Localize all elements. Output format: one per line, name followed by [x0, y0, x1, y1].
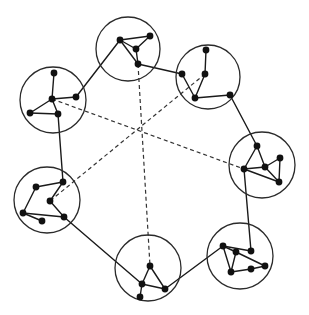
cluster-c5 [207, 223, 273, 289]
cluster-edge [52, 97, 76, 99]
cluster-c7 [14, 167, 80, 233]
graph-node [262, 164, 269, 171]
graph-node [162, 286, 169, 293]
graph-node [248, 248, 255, 255]
bridge-edge [138, 64, 182, 74]
cluster-boundary [207, 223, 273, 289]
cluster-edge [279, 158, 280, 182]
graph-node [27, 110, 34, 117]
clustered-graph-diagram [0, 0, 309, 315]
cluster-boundary [176, 45, 240, 109]
graph-node [262, 263, 269, 270]
graph-node [147, 33, 154, 40]
graph-node [277, 155, 284, 162]
cluster-edge [52, 73, 54, 99]
graph-node [47, 198, 54, 205]
graph-node [192, 95, 199, 102]
cluster-c1 [20, 67, 86, 133]
graph-node [254, 143, 261, 150]
cluster-edge [30, 99, 52, 113]
graph-node [39, 218, 46, 225]
graph-node [276, 179, 283, 186]
cluster-c6 [115, 235, 181, 301]
graph-node [117, 37, 124, 44]
clusters [14, 17, 295, 301]
bridge-edge [76, 40, 120, 97]
bridge-edges [58, 40, 257, 289]
graph-node [241, 166, 248, 173]
bridge-edge [244, 169, 251, 251]
dashed-edge [50, 74, 205, 201]
graph-node [133, 46, 140, 53]
graph-node [233, 249, 240, 256]
graph-node [139, 281, 146, 288]
graph-node [61, 214, 68, 221]
graph-node [137, 294, 144, 301]
graph-node [51, 70, 58, 77]
cluster-c3 [176, 45, 240, 109]
graph-node [202, 71, 209, 78]
bridge-edge [58, 114, 63, 182]
cluster-boundary [229, 132, 295, 198]
graph-node [203, 47, 210, 54]
cluster-edge [244, 146, 257, 169]
graph-node [20, 210, 27, 217]
cluster-edge [195, 95, 230, 98]
cluster-c4 [229, 132, 295, 198]
dashed-edge [52, 99, 244, 169]
cluster-edge [205, 50, 206, 74]
cluster-boundary [96, 17, 160, 81]
graph-node [227, 92, 234, 99]
graph-node [55, 111, 62, 118]
graph-node [220, 243, 227, 250]
cluster-edge [23, 187, 36, 213]
graph-node [147, 263, 154, 270]
cluster-c2 [96, 17, 160, 81]
graph-node [73, 94, 80, 101]
graph-node [228, 269, 235, 276]
cluster-edge [30, 113, 58, 114]
graph-node [135, 61, 142, 68]
dashed-edges [50, 64, 244, 266]
graph-node [33, 184, 40, 191]
cluster-edge [36, 182, 63, 187]
cluster-edge [195, 74, 205, 98]
graph-node [49, 96, 56, 103]
graph-node [60, 179, 67, 186]
cluster-edge [182, 74, 195, 98]
bridge-edge [64, 217, 142, 284]
bridge-edge [165, 246, 223, 289]
graph-node [179, 71, 186, 78]
graph-node [248, 266, 255, 273]
